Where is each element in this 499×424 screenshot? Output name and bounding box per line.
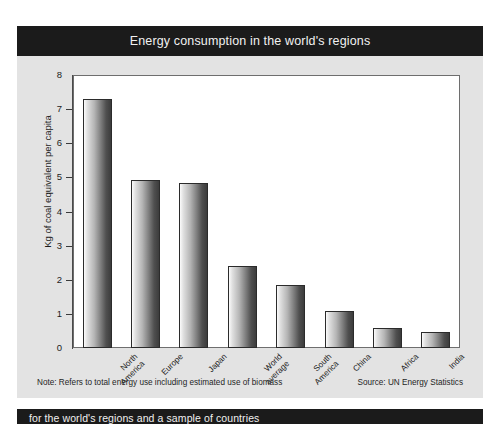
y-axis-title: Kg of coal equivalent per capita [42,92,53,272]
chart-note: Note: Refers to total energy use includi… [37,378,282,387]
x-tick-label: China [351,352,373,374]
x-tick-label: Europe [159,352,184,377]
bar [276,285,305,348]
x-tick-label: Africa [400,352,422,374]
chart-source: Source: UN Energy Statistics [357,378,463,387]
x-tick-label: Japan [206,352,228,374]
y-tick-label: 2 [57,274,62,285]
bar [421,332,450,348]
y-tick-label: 6 [57,137,62,148]
y-tick-label: 4 [57,206,62,217]
y-tick-label: 8 [57,69,62,80]
y-tick-label: 7 [57,103,62,114]
bar [83,99,112,348]
bar [179,183,208,349]
bar [373,328,402,348]
figure-root: Energy consumption in the world's region… [0,0,499,424]
bar-series [73,75,460,348]
bar [228,266,257,348]
caption-text: for the world's regions and a sample of … [29,412,473,424]
y-tick-label: 5 [57,171,62,182]
page-title: Energy consumption in the world's region… [130,34,371,48]
x-axis-labels: NorthAmericaEuropeJapanWorldaverageSouth… [73,348,460,396]
y-tick-label: 1 [57,308,62,319]
x-tick-label: SouthAmerica [305,352,340,387]
chart-title-bar: Energy consumption in the world's region… [17,26,483,56]
y-tick-label: 0 [57,342,62,353]
bar [325,311,354,348]
bar [131,180,160,348]
y-tick-label: 3 [57,240,62,251]
chart-card: Kg of coal equivalent per capita 0123456… [17,56,483,398]
caption-band: for the world's regions and a sample of … [17,409,483,424]
x-tick-label: India [447,352,466,371]
